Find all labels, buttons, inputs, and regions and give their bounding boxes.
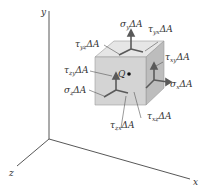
stress-element-diagram: y x z Q σyΔA τyxΔA xyxy=(0,0,208,187)
label-tau-xy: τxyΔA xyxy=(165,52,190,64)
z-axis-label: z xyxy=(8,168,14,178)
label-sigma-x: σxΔA xyxy=(170,79,193,90)
y-axis-label: y xyxy=(40,7,47,17)
label-tau-zy: τzyΔA xyxy=(64,65,89,77)
label-sigma-y: σyΔA xyxy=(120,19,143,31)
x-axis xyxy=(49,139,190,179)
label-tau-xz: τxzΔA xyxy=(147,111,172,122)
label-sigma-z: σzΔA xyxy=(64,85,87,96)
point-q-label: Q xyxy=(118,69,126,79)
x-axis-label: x xyxy=(193,177,198,187)
label-tau-yx: τyxΔA xyxy=(148,24,173,36)
cube-front-face xyxy=(95,57,146,105)
z-axis xyxy=(17,139,49,166)
point-q-marker xyxy=(127,72,131,76)
label-tau-yz: τyzΔA xyxy=(75,39,100,51)
label-tau-zx: τzxΔA xyxy=(110,120,135,131)
